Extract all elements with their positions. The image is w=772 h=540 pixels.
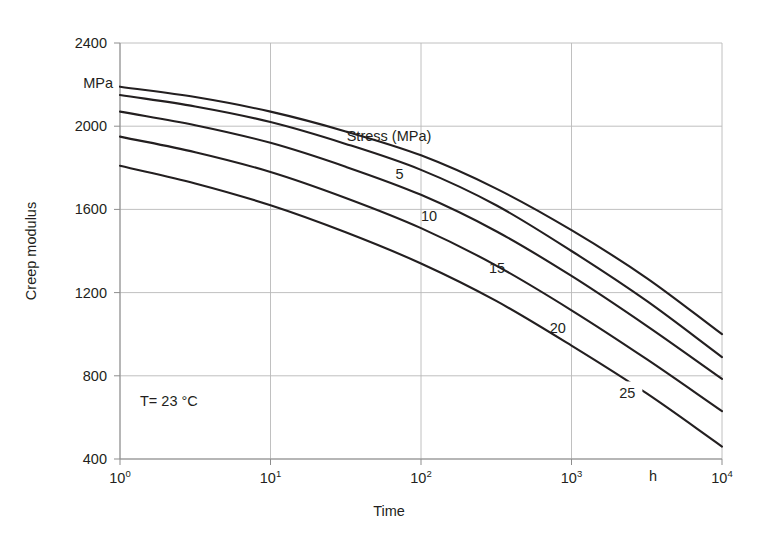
series-label-10: 10 [421, 208, 437, 224]
series-label-5: 5 [395, 166, 403, 182]
legend-title: Stress (MPa) [347, 128, 432, 144]
y-tick-label: 2400 [75, 35, 107, 51]
creep-modulus-chart: 4008001200160020002400 100101102103104 5… [0, 0, 772, 540]
y-tick-label: 400 [83, 451, 107, 467]
y-axis-title: Creep modulus [23, 202, 39, 300]
y-tick-label: 1600 [75, 201, 107, 217]
y-tick-label: 2000 [75, 118, 107, 134]
series-label-15: 15 [489, 260, 505, 276]
chart-figure: 4008001200160020002400 100101102103104 5… [0, 0, 772, 540]
y-tick-label: 800 [83, 368, 107, 384]
y-tick-label: 1200 [75, 285, 107, 301]
temperature-annotation: T= 23 °C [140, 393, 198, 409]
series-label-20: 20 [550, 320, 566, 336]
x-axis-unit-label: h [649, 468, 657, 484]
y-axis-unit-label: MPa [83, 75, 114, 91]
x-axis-title: Time [373, 503, 405, 519]
series-label-25: 25 [619, 385, 635, 401]
